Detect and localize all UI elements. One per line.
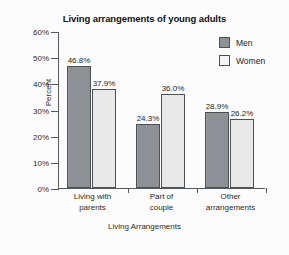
bar-value-label: 26.2%: [231, 109, 254, 118]
y-axis-tick-label: 20%: [19, 132, 49, 141]
x-axis-label-line: Other: [196, 192, 265, 203]
bar-women-1[interactable]: 36.0%: [161, 94, 185, 188]
y-axis-tick: [51, 58, 59, 59]
x-axis-label-line: Living with: [58, 192, 127, 203]
bar-value-label: 36.0%: [162, 84, 185, 93]
x-axis-category-label: Otherarrangements: [196, 192, 265, 213]
y-axis-tick: [51, 32, 59, 33]
x-axis-title: Living Arrangements: [0, 222, 289, 231]
bar-men-0[interactable]: 46.8%: [67, 66, 91, 188]
chart-title: Living arrangements of young adults: [0, 13, 289, 24]
bar-value-label: 46.8%: [68, 56, 91, 65]
legend-item-men[interactable]: Men: [219, 35, 265, 50]
y-axis-tick-label: 40%: [19, 80, 49, 89]
legend-swatch-icon: [219, 37, 230, 48]
y-axis-tick-label: 60%: [19, 28, 49, 37]
x-axis-category-label: Part ofcouple: [127, 192, 196, 213]
bar-value-label: 28.9%: [206, 102, 229, 111]
bar-women-0[interactable]: 37.9%: [92, 89, 116, 188]
x-axis-label-line: couple: [127, 203, 196, 214]
bar-value-label: 37.9%: [93, 79, 116, 88]
bar-value-label: 24.3%: [137, 114, 160, 123]
y-axis-tick-label: 50%: [19, 54, 49, 63]
x-axis-label-line: arrangements: [196, 203, 265, 214]
chart-figure: Living arrangements of young adults Perc…: [0, 0, 289, 255]
legend-item-women[interactable]: Women: [219, 53, 265, 68]
bar-men-2[interactable]: 28.9%: [205, 112, 229, 188]
x-axis-label-line: Part of: [127, 192, 196, 203]
x-axis-tick: [266, 188, 267, 193]
y-axis-tick-label: 30%: [19, 106, 49, 115]
bar-men-1[interactable]: 24.3%: [136, 124, 160, 188]
x-axis-category-label: Living withparents: [58, 192, 127, 213]
y-axis-tick: [51, 84, 59, 85]
bar-group: 24.3%36.0%: [128, 32, 197, 188]
y-axis-tick-label: 10%: [19, 158, 49, 167]
y-axis-tick: [51, 189, 59, 190]
legend-label: Men: [236, 38, 253, 48]
y-axis-tick: [51, 137, 59, 138]
legend-swatch-icon: [219, 55, 230, 66]
y-axis-tick-label: 0%: [19, 185, 49, 194]
y-axis-tick: [51, 163, 59, 164]
bar-group: 46.8%37.9%: [59, 32, 128, 188]
y-axis-tick: [51, 111, 59, 112]
legend-label: Women: [236, 56, 265, 66]
x-axis-label-line: parents: [58, 203, 127, 214]
chart-legend: MenWomen: [219, 35, 265, 71]
bar-women-2[interactable]: 26.2%: [230, 119, 254, 188]
